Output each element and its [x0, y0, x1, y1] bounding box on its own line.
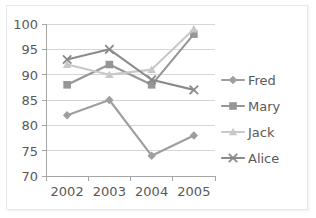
series-mary: [63, 30, 197, 88]
series-line-fred: [67, 100, 194, 156]
legend-label-jack: Jack: [247, 125, 275, 140]
series-line-mary: [67, 34, 194, 85]
x-axis-tick-labels: 2002200320042005: [51, 184, 211, 199]
series-line-jack: [67, 29, 194, 75]
chart-container: 707580859095100 2002200320042005 FredMar…: [0, 0, 316, 218]
line-chart: 707580859095100 2002200320042005 FredMar…: [0, 0, 316, 218]
legend-label-fred: Fred: [248, 73, 276, 88]
y-axis-tick-label: 85: [21, 93, 38, 108]
legend-marker-fred: [229, 76, 237, 84]
x-axis-tick-label: 2002: [51, 184, 84, 199]
gridlines: [46, 24, 215, 176]
y-axis-tick-label: 70: [21, 169, 38, 184]
y-axis-tick-label: 75: [21, 144, 38, 159]
legend-item-mary[interactable]: Mary: [222, 99, 281, 114]
x-axis-tick-label: 2004: [135, 184, 168, 199]
data-point-mary-2002: [63, 81, 71, 89]
x-axis-tick-label: 2003: [93, 184, 126, 199]
legend-item-fred[interactable]: Fred: [222, 73, 276, 88]
data-point-mary-2003: [106, 61, 114, 69]
series-jack: [63, 25, 198, 78]
legend-item-alice[interactable]: Alice: [222, 151, 279, 166]
y-axis-tick-label: 90: [21, 68, 38, 83]
data-series: [63, 25, 198, 160]
axes: [42, 24, 215, 181]
data-point-fred-2002: [63, 111, 71, 119]
y-axis-tick-label: 80: [21, 118, 38, 133]
legend-label-alice: Alice: [248, 151, 279, 166]
chart-legend: FredMaryJackAlice: [222, 73, 281, 166]
y-axis-tick-labels: 707580859095100: [13, 17, 38, 184]
y-axis-tick-label: 95: [21, 42, 38, 57]
data-point-fred-2005: [190, 131, 198, 139]
legend-label-mary: Mary: [248, 99, 281, 114]
legend-marker-mary: [229, 102, 237, 110]
y-axis-tick-label: 100: [13, 17, 38, 32]
legend-item-jack[interactable]: Jack: [222, 125, 275, 140]
x-axis-tick-label: 2005: [177, 184, 210, 199]
data-point-jack-2005: [190, 25, 198, 33]
